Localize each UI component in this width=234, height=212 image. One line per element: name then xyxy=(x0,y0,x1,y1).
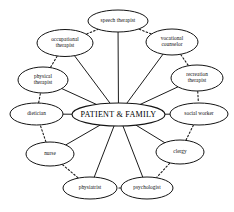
node-physical-therapist[interactable]: physicaltherapist xyxy=(18,67,68,93)
ring-link-physiatrist-to-nurse xyxy=(63,165,78,178)
node-clergy[interactable]: clergy xyxy=(156,140,204,164)
diagram-canvas: speech therapistvocationalcounselorrecre… xyxy=(0,0,234,212)
node-label-psychologist: psychologist xyxy=(133,184,161,190)
node-occupational-therapist[interactable]: occupationaltherapist xyxy=(37,30,93,57)
spoke-line-recreation-therapist xyxy=(140,87,178,105)
spoke-line-physical-therapist xyxy=(62,89,97,105)
spoke-line-clergy xyxy=(136,125,165,143)
node-label-speech-therapist: speech therapist xyxy=(101,17,136,23)
center-label: PATIENT & FAMILY xyxy=(81,110,157,119)
spoke-line-nurse xyxy=(66,125,100,145)
ring-link-social-worker-to-clergy xyxy=(186,125,193,140)
node-psychologist[interactable]: psychologist xyxy=(121,177,173,199)
node-label-recreation-therapist: recreationtherapist xyxy=(186,71,208,83)
node-speech-therapist[interactable]: speech therapist xyxy=(88,10,148,32)
node-label-clergy: clergy xyxy=(173,148,187,154)
node-label-physiatrist: physiatrist xyxy=(79,184,102,190)
ring-link-physical-therapist-to-occupational-therapist xyxy=(51,56,57,67)
spoke-line-physiatrist xyxy=(94,126,114,177)
spoke-line-psychologist xyxy=(123,126,143,177)
ring-link-recreation-therapist-to-social-worker xyxy=(198,91,199,102)
ring-link-nurse-to-dietician xyxy=(40,125,46,141)
node-label-dietician: dietician xyxy=(27,110,46,116)
node-social-worker[interactable]: social worker xyxy=(170,103,228,125)
center-node-group: PATIENT & FAMILY xyxy=(72,103,165,126)
node-label-nurse: nurse xyxy=(44,150,56,156)
node-center-patient-family[interactable]: PATIENT & FAMILY xyxy=(72,103,165,126)
spoke-line-occupational-therapist xyxy=(75,56,111,103)
care-team-diagram: speech therapistvocationalcounselorrecre… xyxy=(0,0,234,212)
ring-link-clergy-to-psychologist xyxy=(157,163,170,177)
node-label-social-worker: social worker xyxy=(184,110,214,116)
node-label-physical-therapist: physicaltherapist xyxy=(34,73,53,85)
ring-link-dietician-to-physical-therapist xyxy=(39,93,41,102)
node-dietician[interactable]: dietician xyxy=(10,103,63,125)
ring-link-occupational-therapist-to-speech-therapist xyxy=(87,30,98,34)
ring-link-speech-therapist-to-vocational-counselor xyxy=(139,29,151,34)
node-nurse[interactable]: nurse xyxy=(26,142,74,166)
node-recreation-therapist[interactable]: recreationtherapist xyxy=(171,65,223,91)
node-label-vocational-counselor: vocationalcounselor xyxy=(161,35,184,47)
ring-link-vocational-counselor-to-recreation-therapist xyxy=(181,55,188,66)
node-physiatrist[interactable]: physiatrist xyxy=(63,177,117,199)
node-vocational-counselor[interactable]: vocationalcounselor xyxy=(146,29,198,55)
